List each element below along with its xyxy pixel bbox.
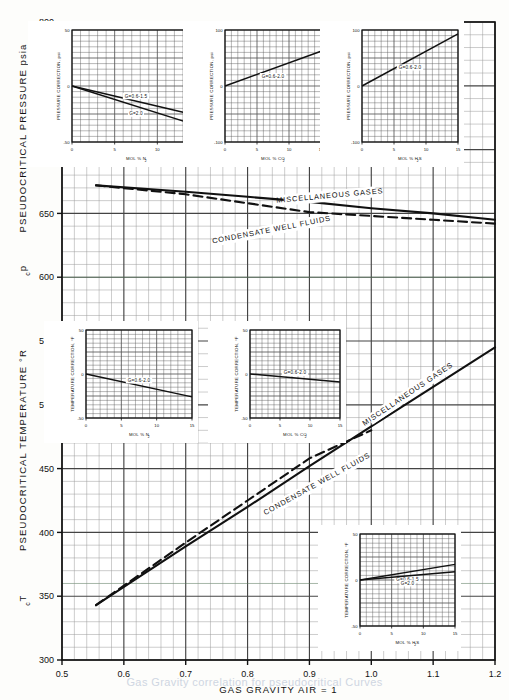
inset-series-label: G=2.0 [128, 111, 144, 117]
inset-y-tick-label: -100 [214, 140, 223, 145]
y-tick-label: 650 [39, 209, 54, 219]
y-axis-symbol-temperature: T [17, 595, 28, 602]
svg-text:G=0.6-2.0: G=0.6-2.0 [284, 370, 307, 375]
inset-y-axis-label: PRESSURE CORRECTION, psi [346, 52, 351, 120]
inset-temperature-co2: 500-50051015TEMPERATURE CORRECTION, °FMO… [208, 321, 346, 443]
svg-text:G=0.6-1.5: G=0.6-1.5 [125, 94, 148, 99]
inset-y-tick-label: 100 [216, 28, 224, 33]
svg-text:G=2.0: G=2.0 [401, 581, 415, 586]
inset-x-tick-label: 15 [190, 423, 195, 428]
inset-x-tick-label: 10 [308, 423, 313, 428]
inset-temperature-h2s: 500-50051015TEMPERATURE CORRECTION, °FMO… [318, 525, 461, 651]
inset-y-tick-label: 50 [65, 28, 70, 33]
inset-series-label: G=2.0 [400, 580, 416, 586]
svg-text:G=0.6-2.0: G=0.6-2.0 [399, 65, 422, 70]
inset-y-tick-label: 50 [243, 328, 248, 333]
y-axis-symbol-pressure: p [17, 265, 28, 271]
figure-caption: Gas Gravity correlation for pseudocritic… [0, 676, 509, 688]
svg-text:G=0.6-2.0: G=0.6-2.0 [262, 74, 285, 79]
inset-x-tick-label: 10 [287, 147, 292, 152]
inset-y-tick-label: 50 [79, 328, 84, 333]
inset-gridlines [72, 30, 200, 142]
svg-text:2: 2 [145, 159, 147, 163]
y-axis-symbol-temperature-sub: c [24, 602, 31, 606]
inset-background [183, 21, 327, 167]
svg-text:2: 2 [148, 435, 150, 439]
inset-pressure-co2: 1000-100051015PRESSURE CORRECTION, psiMO… [183, 21, 327, 167]
inset-y-axis-label: PRESSURE CORRECTION, psi [209, 52, 214, 120]
inset-series-label: G=0.6-1.5 [123, 93, 149, 99]
inset-background [28, 21, 206, 167]
svg-text:MOL % H: MOL % H [395, 640, 415, 645]
y-tick-label: 350 [39, 591, 54, 601]
inset-x-tick-label: 15 [456, 147, 461, 152]
inset-temperature-n2: 500-50051015TEMPERATURE CORRECTION, °FMO… [44, 321, 198, 443]
inset-y-tick-label: -50 [77, 416, 84, 421]
inset-y-tick-label: -50 [351, 624, 358, 629]
y-axis-label-temperature: PSEUDOCRITICAL TEMPERATURE °R [17, 349, 28, 551]
svg-text:S: S [416, 640, 419, 645]
svg-text:MOL % N: MOL % N [129, 432, 149, 437]
svg-text:MOL % CO: MOL % CO [283, 432, 307, 437]
inset-series-label: G=0.6-2.0 [282, 370, 308, 376]
svg-text:MOL % H: MOL % H [398, 156, 418, 161]
inset-x-tick-label: 10 [155, 147, 160, 152]
inset-gridlines [86, 330, 192, 418]
inset-y-tick-label: -50 [241, 416, 248, 421]
y-axis-label-pressure: PSEUDOCRITICAL PRESSURE psia [17, 44, 28, 233]
inset-y-axis-label: PRESSURE CORRECTION, psi [56, 52, 61, 120]
inset-y-axis-label: TEMPERATURE CORRECTION, °F [234, 336, 239, 412]
inset-y-axis-label: TEMPERATURE CORRECTION, °F [344, 542, 349, 618]
y-tick-label: 400 [39, 528, 54, 538]
y-axis-symbol-pressure-sub: c [24, 272, 31, 276]
svg-text:G=2.0: G=2.0 [129, 111, 143, 116]
inset-pressure-n2: 500-50051015PRESSURE CORRECTION, psiMOL … [28, 21, 206, 167]
inset-gridlines [225, 30, 321, 142]
svg-text:MOL % CO: MOL % CO [261, 156, 285, 161]
inset-y-tick-label: 50 [353, 532, 358, 537]
inset-gridlines [362, 30, 458, 142]
inset-x-tick-label: 10 [421, 631, 426, 636]
inset-y-tick-label: -100 [351, 140, 360, 145]
inset-x-tick-label: 15 [453, 631, 458, 636]
svg-text:MOL % N: MOL % N [126, 156, 146, 161]
inset-series-label: G=0.6-2.0 [260, 73, 286, 79]
inset-y-tick-label: -50 [63, 140, 70, 145]
svg-text:G=0.6-2.0: G=0.6-2.0 [128, 378, 151, 383]
inset-background [208, 321, 346, 443]
inset-x-tick-label: 10 [424, 147, 429, 152]
svg-text:2: 2 [305, 435, 307, 439]
inset-y-axis-label: TEMPERATURE CORRECTION, °F [70, 336, 75, 412]
inset-pressure-h2s: 1000-100051015PRESSURE CORRECTION, psiMO… [320, 21, 464, 167]
y-tick-label: 450 [39, 464, 54, 474]
y-tick-label: 300 [39, 655, 54, 665]
pseudocritical-properties-chart: 3003504004505005506006507007508000.50.60… [0, 0, 509, 700]
inset-series-label: G=0.6-2.0 [397, 64, 423, 70]
inset-series-label: G=0.6-2.0 [126, 377, 152, 383]
svg-text:S: S [419, 156, 422, 161]
inset-y-tick-label: 100 [353, 28, 361, 33]
y-tick-label: 600 [39, 272, 54, 282]
inset-x-tick-label: 10 [154, 423, 159, 428]
inset-x-tick-label: 15 [338, 423, 343, 428]
figure-canvas: 3003504004505005506006507007508000.50.60… [0, 0, 509, 700]
svg-text:2: 2 [283, 159, 285, 163]
